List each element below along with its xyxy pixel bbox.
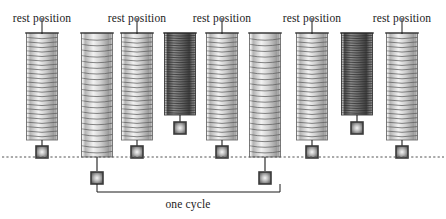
weight-block — [174, 122, 186, 134]
diagram-canvas — [0, 0, 446, 219]
spring-stretched-2 — [250, 33, 281, 157]
springs-layer — [27, 33, 418, 157]
spring-body — [122, 33, 153, 140]
rest-position-label-1: rest position — [13, 12, 72, 24]
weight-group-4 — [174, 115, 186, 134]
weight-group-6 — [259, 157, 271, 184]
weight-block — [36, 146, 48, 158]
weight-group-1 — [36, 140, 48, 158]
spring-oscillation-diagram: rest positionrest positionrest positionr… — [0, 0, 446, 219]
weight-group-5 — [216, 140, 228, 158]
weight-block — [396, 146, 408, 158]
spring-rest-1 — [27, 33, 58, 140]
weight-block — [216, 146, 228, 158]
weight-group-9 — [396, 140, 408, 158]
weight-block — [259, 172, 271, 184]
weight-block — [131, 146, 143, 158]
spring-rest-3 — [207, 33, 238, 140]
spring-body — [27, 33, 58, 140]
spring-body — [207, 33, 238, 140]
rest-position-label-3: rest position — [193, 12, 252, 24]
rest-position-label-5: rest position — [373, 12, 432, 24]
weight-group-8 — [351, 115, 363, 134]
one-cycle-label: one cycle — [165, 198, 210, 210]
one-cycle-bracket — [97, 184, 280, 192]
weight-group-3 — [131, 140, 143, 158]
weight-group-7 — [306, 140, 318, 158]
spring-rest-4 — [297, 33, 328, 140]
spring-body — [387, 33, 418, 140]
weight-block — [306, 146, 318, 158]
spring-compressed-2 — [342, 33, 373, 115]
weight-group-2 — [91, 157, 103, 184]
weight-block — [91, 172, 103, 184]
spring-rest-5 — [387, 33, 418, 140]
spring-compressed-1 — [165, 33, 196, 115]
spring-body — [297, 33, 328, 140]
spring-stretched-1 — [82, 33, 113, 157]
spring-rest-2 — [122, 33, 153, 140]
cycle-bracket-path — [97, 184, 280, 192]
weight-block — [351, 122, 363, 134]
rest-position-label-4: rest position — [283, 12, 342, 24]
rest-position-label-2: rest position — [108, 12, 167, 24]
